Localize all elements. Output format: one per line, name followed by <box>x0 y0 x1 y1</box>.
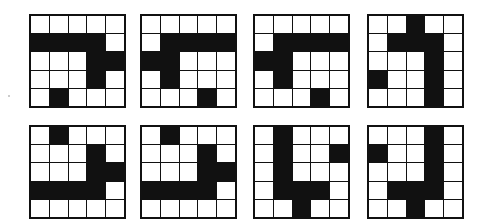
grid-cell <box>142 89 160 106</box>
grid-cell <box>69 16 87 33</box>
grid-cell <box>388 163 406 180</box>
grid-cell <box>50 200 68 217</box>
grid-cell <box>161 127 179 144</box>
grid-cell <box>106 200 124 217</box>
grid-cell <box>330 89 348 106</box>
grid-6 <box>140 125 237 219</box>
grid-cell <box>106 182 124 199</box>
grid-cell <box>50 145 68 162</box>
grid-cell <box>198 163 216 180</box>
grid-cell <box>293 52 311 69</box>
grid-cell <box>31 127 49 144</box>
grid-cell <box>217 52 235 69</box>
grid-cell <box>50 89 68 106</box>
grid-cell <box>69 71 87 88</box>
grid-cell <box>50 34 68 51</box>
grid-cell <box>369 163 387 180</box>
grid-cell <box>444 182 462 199</box>
grid-cell <box>31 52 49 69</box>
grid-cell <box>161 145 179 162</box>
grid-cell <box>255 89 273 106</box>
grid-cell <box>255 182 273 199</box>
grid-cell <box>369 52 387 69</box>
grid-cell <box>142 52 160 69</box>
grid-cell <box>293 16 311 33</box>
grid-cell <box>31 71 49 88</box>
grid-cell <box>69 89 87 106</box>
grid-cell <box>217 145 235 162</box>
grid-cell <box>274 145 292 162</box>
grid-cell <box>388 52 406 69</box>
grid-cell <box>274 200 292 217</box>
grid-cell <box>369 182 387 199</box>
grid-cell <box>274 163 292 180</box>
grid-cell <box>180 182 198 199</box>
grid-cell <box>330 71 348 88</box>
grid-cell <box>388 145 406 162</box>
grid-cell <box>217 34 235 51</box>
grid-cell <box>425 71 443 88</box>
grid-cell <box>274 182 292 199</box>
grid-cell <box>444 145 462 162</box>
grid-cell <box>407 34 425 51</box>
grid-cell <box>274 89 292 106</box>
grid-cell <box>444 52 462 69</box>
grid-cell <box>180 127 198 144</box>
grid-cell <box>255 145 273 162</box>
grid-cell <box>180 89 198 106</box>
grid-cell <box>444 16 462 33</box>
grid-cell <box>255 200 273 217</box>
grid-cell <box>293 71 311 88</box>
grid-cell <box>425 163 443 180</box>
grid-cell <box>425 16 443 33</box>
grid-cell <box>311 16 329 33</box>
grid-3 <box>253 14 350 108</box>
grid-cell <box>330 34 348 51</box>
grid-cell <box>330 127 348 144</box>
grid-cell <box>255 71 273 88</box>
grid-cell <box>106 127 124 144</box>
grid-8 <box>367 125 464 219</box>
grid-cell <box>180 200 198 217</box>
grid-cell <box>217 182 235 199</box>
grid-cell <box>69 34 87 51</box>
grid-cell <box>31 182 49 199</box>
grid-cell <box>311 163 329 180</box>
grid-cell <box>274 16 292 33</box>
grid-cell <box>255 52 273 69</box>
grid-cell <box>142 182 160 199</box>
grid-cell <box>217 163 235 180</box>
grid-cell <box>106 163 124 180</box>
grid-cell <box>161 71 179 88</box>
grid-cell <box>407 52 425 69</box>
grid-cell <box>31 200 49 217</box>
grid-cell <box>142 127 160 144</box>
grid-cell <box>142 163 160 180</box>
grid-cell <box>161 163 179 180</box>
grid-cell <box>255 16 273 33</box>
grid-cell <box>161 89 179 106</box>
grid-cell <box>180 52 198 69</box>
grid-cell <box>198 34 216 51</box>
grid-cell <box>425 34 443 51</box>
grid-cell <box>217 71 235 88</box>
grid-cell <box>198 71 216 88</box>
grid-cell <box>69 182 87 199</box>
grid-cell <box>311 34 329 51</box>
grid-cell <box>87 127 105 144</box>
grid-cell <box>388 200 406 217</box>
grid-cell <box>311 182 329 199</box>
grid-cell <box>87 200 105 217</box>
grid-cell <box>31 34 49 51</box>
grid-cell <box>217 89 235 106</box>
stray-dot <box>8 95 10 97</box>
grid-cell <box>369 89 387 106</box>
grid-cell <box>407 200 425 217</box>
grid-cell <box>274 127 292 144</box>
grid-cell <box>31 163 49 180</box>
grid-cell <box>255 163 273 180</box>
grid-cell <box>425 145 443 162</box>
grid-cell <box>311 145 329 162</box>
grid-cell <box>274 34 292 51</box>
grid-cell <box>50 182 68 199</box>
